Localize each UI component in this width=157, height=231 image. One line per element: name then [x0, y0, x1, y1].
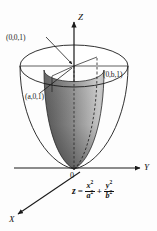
point-label-b: (0,b,1)	[103, 70, 123, 79]
term2-denominator: b2	[105, 192, 114, 200]
figure-container: Z	[0, 0, 157, 231]
y-axis-label: Y	[144, 162, 150, 172]
equation-term-2: y2 b2	[104, 182, 114, 200]
equation-lhs: z	[72, 186, 76, 196]
surface-equation: z = x2 a2 + y2 b2	[72, 182, 114, 200]
z-axis-label: Z	[78, 12, 84, 22]
origin-label: 0	[70, 171, 74, 180]
x-axis-label: X	[8, 214, 15, 224]
term1-denominator: a2	[85, 192, 94, 200]
equation-term-1: x2 a2	[85, 182, 95, 200]
point-label-a: (a,0,1)	[25, 92, 44, 101]
equation-plus: +	[97, 186, 102, 196]
point-label-apex: (0,0,1)	[6, 33, 26, 42]
equation-equals: =	[78, 186, 83, 196]
